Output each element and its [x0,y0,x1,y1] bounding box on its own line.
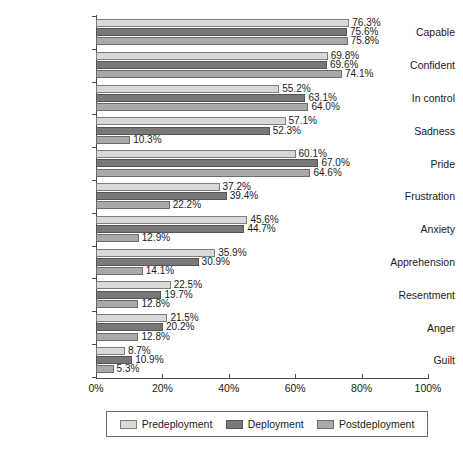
bar-value-label: 14.1% [146,265,174,276]
legend-label: Predeployment [142,418,213,430]
bar-postdeployment [96,267,143,275]
legend-item-deployment[interactable]: Deployment [226,418,304,430]
bar-value-label: 5.3% [117,363,140,374]
category-label-pride: Pride [367,158,455,170]
bar-predeployment [96,117,286,125]
category-label-confident: Confident [367,59,455,71]
x-tick-label: 40% [199,382,259,394]
bar-postdeployment [96,70,342,78]
x-tick-label: 60% [265,382,325,394]
bar-predeployment [96,216,247,224]
bar-postdeployment [96,365,114,373]
category-label-frustration: Frustration [367,190,455,202]
y-tick [92,114,97,115]
bar-deployment [96,159,318,167]
bar-deployment [96,192,227,200]
bar-value-label: 20.2% [166,321,194,332]
bar-predeployment [96,52,328,60]
bar-postdeployment [96,37,348,45]
bar-value-label: 55.2% [282,83,310,94]
bar-deployment [96,225,244,233]
bar-predeployment [96,183,220,191]
bar-postdeployment [96,136,130,144]
bar-postdeployment [96,300,138,308]
x-axis-line [96,378,429,379]
y-tick [92,147,97,148]
x-tick-label: 100% [398,382,458,394]
bar-postdeployment [96,103,308,111]
y-tick [92,246,97,247]
x-tick [362,374,363,379]
y-tick [92,180,97,181]
category-label-in-control: In control [367,92,455,104]
legend-items: PredeploymentDeploymentPostdeployment [107,412,427,436]
category-label-apprehension: Apprehension [367,256,455,268]
bar-row: 75.8% [96,37,428,45]
legend-label: Postdeployment [339,418,414,430]
bar-value-label: 12.8% [141,298,169,309]
legend-label: Deployment [248,418,304,430]
bar-value-label: 10.9% [135,354,163,365]
bar-value-label: 22.2% [173,199,201,210]
bar-value-label: 39.4% [230,190,258,201]
bar-value-label: 10.3% [133,134,161,145]
bar-postdeployment [96,333,138,341]
bar-row: 22.2% [96,201,428,209]
x-tick-label: 0% [66,382,126,394]
category-label-anger: Anger [367,322,455,334]
category-label-capable: Capable [367,26,455,38]
bar-predeployment [96,281,171,289]
x-tick [162,374,163,379]
bar-row: 12.8% [96,300,428,308]
legend-swatch-icon [226,420,243,429]
bar-predeployment [96,85,279,93]
y-tick [92,16,97,17]
bar-value-label: 30.9% [202,256,230,267]
bar-row: 12.9% [96,234,428,242]
y-tick [92,213,97,214]
legend-swatch-icon [317,420,334,429]
bar-predeployment [96,19,349,27]
x-tick [96,374,97,379]
bar-value-label: 64.6% [313,167,341,178]
category-label-sadness: Sadness [367,125,455,137]
y-tick [92,344,97,345]
y-tick [92,311,97,312]
category-label-resentment: Resentment [367,289,455,301]
bar-predeployment [96,314,167,322]
x-tick-label: 20% [132,382,192,394]
bar-predeployment [96,150,296,158]
y-tick [92,49,97,50]
bar-value-label: 64.0% [311,101,339,112]
x-tick [295,374,296,379]
bar-value-label: 52.3% [273,125,301,136]
bar-deployment [96,28,347,36]
bar-predeployment [96,347,125,355]
bar-row: 5.3% [96,365,428,373]
x-tick [229,374,230,379]
category-label-guilt: Guilt [367,354,455,366]
y-tick [92,82,97,83]
bar-postdeployment [96,169,310,177]
bar-row: 64.6% [96,169,428,177]
bar-row: 10.3% [96,136,428,144]
legend-item-predeployment[interactable]: Predeployment [120,418,213,430]
legend: PredeploymentDeploymentPostdeployment [106,411,428,437]
legend-item-postdeployment[interactable]: Postdeployment [317,418,414,430]
bar-predeployment [96,249,215,257]
bar-chart: 76.3%75.6%75.8%69.8%69.6%74.1%55.2%63.1%… [0,0,463,454]
legend-swatch-icon [120,420,137,429]
bar-row: 12.8% [96,333,428,341]
bar-postdeployment [96,234,139,242]
bar-deployment [96,127,270,135]
bar-value-label: 44.7% [247,223,275,234]
category-label-anxiety: Anxiety [367,223,455,235]
bar-postdeployment [96,201,170,209]
bar-deployment [96,61,327,69]
bar-deployment [96,94,305,102]
x-tick-label: 80% [332,382,392,394]
bar-value-label: 12.8% [141,331,169,342]
bar-row: 74.1% [96,70,428,78]
bar-row: 64.0% [96,103,428,111]
bar-value-label: 12.9% [142,232,170,243]
